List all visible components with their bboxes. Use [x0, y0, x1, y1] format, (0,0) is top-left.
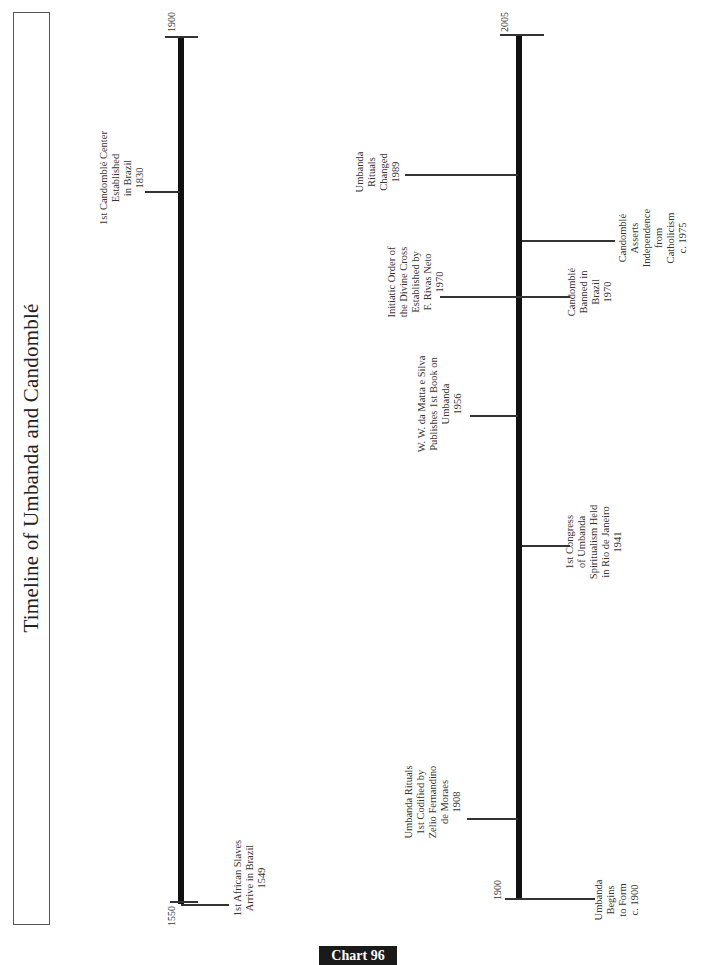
event-connector	[470, 415, 518, 417]
tick-start-right	[505, 898, 595, 900]
event-label: Initiatic Order of the Divine Cross Esta…	[386, 246, 446, 317]
event-label: 1st African Slaves Arrive in Brazil 1549	[232, 840, 268, 916]
event-label: Umbanda Begins to Form c. 1900	[593, 880, 641, 921]
event-connector	[522, 240, 615, 242]
tick-end-left	[165, 36, 198, 38]
event-label: Candomblé Banned in Brazil 1970	[566, 268, 614, 316]
page-title: Timeline of Umbanda and Candomblé	[19, 304, 44, 633]
tick-end-right	[500, 34, 544, 36]
tick-label-end-right: 2005	[499, 12, 511, 32]
tick-label-start-left: 1550	[166, 906, 178, 926]
event-connector	[405, 174, 518, 176]
event-label: Candomblé Asserts Independence from Cath…	[617, 209, 689, 267]
event-connector	[440, 296, 570, 298]
tick-label-end-left: 1900	[166, 12, 178, 32]
timeline-axis-left	[178, 37, 184, 904]
event-connector	[467, 818, 518, 820]
event-label: W. W. da Matta e Silva Publishes 1st Boo…	[416, 356, 464, 453]
event-connector	[522, 545, 570, 547]
event-connector	[181, 904, 229, 906]
tick-start-left	[170, 901, 198, 903]
chart-number-badge: Chart 96	[319, 946, 397, 965]
event-label: 1st Congress of Umbanda Spiritualism Hel…	[564, 505, 624, 579]
event-label: Umbanda Rituals Changed 1989	[354, 152, 402, 193]
tick-label-start-right: 1900	[492, 880, 504, 900]
event-label: 1st Candomblé Center Established in Braz…	[98, 131, 146, 225]
event-label: Umbanda Rituals 1st Codified by Zelio Fe…	[403, 765, 463, 838]
timeline-axis-right	[516, 35, 522, 900]
event-connector	[145, 191, 180, 193]
